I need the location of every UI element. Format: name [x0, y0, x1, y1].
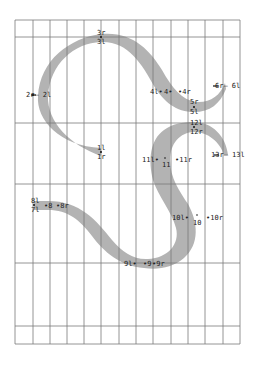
- point-11: [164, 157, 166, 159]
- label-5l: 5l: [190, 108, 198, 116]
- point-10: [196, 214, 198, 216]
- label-11r: •11r: [175, 156, 192, 164]
- label-8l: 8l: [31, 197, 39, 205]
- label-4l: 4l•: [150, 88, 163, 96]
- label-12l: 12l: [190, 119, 203, 127]
- label-5r: 5r: [190, 98, 198, 106]
- glyph-shape: [34, 34, 228, 269]
- label-11: 11: [162, 161, 170, 169]
- label-3l: 3l: [97, 38, 105, 46]
- label-11l: 11l•: [142, 156, 159, 164]
- label-7l: 7l: [31, 206, 39, 214]
- label-4r: •4r: [178, 88, 191, 96]
- label-6: 6r— 6l: [215, 82, 240, 90]
- glyph-diagram: 3r 3l 2r— 2l 4l• 4• •4r 5r 5l 6r— 6l 12l…: [0, 0, 255, 365]
- label-1l: 1l: [97, 144, 105, 152]
- label-3r: 3r: [97, 29, 105, 37]
- label-13: 13r— 13l: [211, 151, 245, 159]
- label-10: 10: [193, 219, 201, 227]
- label-8r: •8r: [56, 202, 69, 210]
- label-8: •8: [44, 202, 52, 210]
- label-2: 2r— 2l: [26, 91, 51, 99]
- label-1r: 1r: [97, 153, 105, 161]
- label-12r: 12r: [190, 128, 203, 136]
- label-10r: •10r: [206, 214, 223, 222]
- label-9l: 9l•: [124, 260, 137, 268]
- label-9: •9: [143, 260, 151, 268]
- point-labels: 3r 3l 2r— 2l 4l• 4• •4r 5r 5l 6r— 6l 12l…: [26, 29, 245, 268]
- label-4: 4•: [164, 88, 172, 96]
- label-9r: •9r: [152, 260, 165, 268]
- label-10l: 10l•: [172, 214, 189, 222]
